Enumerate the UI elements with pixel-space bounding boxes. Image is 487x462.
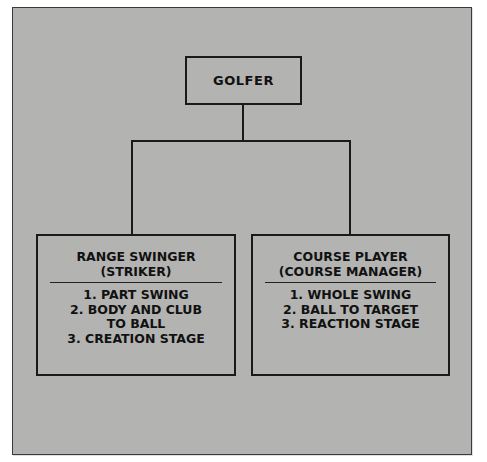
list-item: TO BALL [38,317,234,332]
list-item: 1. PART SWING [38,288,234,303]
list-item: 2. BODY AND CLUB [38,303,234,318]
node-course-player: COURSE PLAYER (COURSE MANAGER) 1. WHOLE … [251,234,450,376]
list-item: 3. CREATION STAGE [38,332,234,347]
node-range-swinger: RANGE SWINGER (STRIKER) 1. PART SWING 2.… [36,234,236,376]
connector-left-down [131,140,133,235]
node-subtitle-line: (COURSE MANAGER) [253,264,448,279]
node-title-line: RANGE SWINGER [38,249,234,264]
title-divider [50,282,222,283]
list-item: 1. WHOLE SWING [253,288,448,303]
connector-root-down [242,105,244,141]
list-item: 3. REACTION STAGE [253,317,448,332]
connector-right-down [349,140,351,235]
node-title-line: COURSE PLAYER [253,249,448,264]
root-label: GOLFER [213,73,274,88]
node-subtitle-line: (STRIKER) [38,264,234,279]
list-item: 2. BALL TO TARGET [253,303,448,318]
connector-horizontal [131,140,351,142]
root-node-golfer: GOLFER [185,56,302,105]
title-divider [265,282,436,283]
